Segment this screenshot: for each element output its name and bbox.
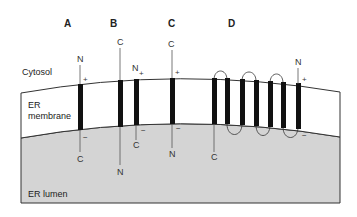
er-membrane-label-line2: membrane <box>28 111 71 121</box>
protein-a-c-terminus: C <box>77 154 84 164</box>
protein-a-plus-charge: + <box>83 75 88 84</box>
protein-c-minus-charge: − <box>176 124 181 133</box>
protein-a-n-terminus: N <box>77 54 84 64</box>
protein-d-tm-segment-3 <box>240 79 245 125</box>
protein-d-c-terminus: C <box>211 152 218 162</box>
protein-b-n-terminus-cytosol: N <box>132 63 139 73</box>
protein-c-n-terminus: N <box>169 149 176 159</box>
protein-c-header: C <box>168 18 175 29</box>
protein-c-tm-segment <box>170 78 175 124</box>
protein-d-n-terminus: N <box>295 57 302 67</box>
protein-d-tm-segment-2 <box>225 78 230 124</box>
protein-d-tm-segment-1 <box>212 78 217 124</box>
protein-d-tm-segment-7 <box>296 83 301 129</box>
protein-a-tm-segment <box>78 84 83 130</box>
er-lumen-label: ER lumen <box>28 189 68 199</box>
protein-c-c-terminus: C <box>168 39 175 49</box>
protein-d-plus-charge: + <box>302 75 307 84</box>
er-membrane-label-line1: ER <box>28 100 41 110</box>
er-lumen-region <box>21 124 340 203</box>
protein-a-minus-charge: − <box>83 133 88 142</box>
protein-c-plus-charge: + <box>175 68 180 77</box>
protein-b-header: B <box>110 18 117 29</box>
protein-d-header: D <box>228 18 235 29</box>
protein-b-c-terminus-lumen: C <box>133 140 140 150</box>
protein-b-tm-segment-1 <box>118 80 123 127</box>
protein-b-minus-charge: − <box>141 126 146 135</box>
protein-b-tm-segment-2 <box>134 79 139 125</box>
cytosol-label: Cytosol <box>22 67 52 77</box>
protein-d-tm-segment-4 <box>254 80 259 126</box>
protein-d-tm-segment-6 <box>281 82 286 128</box>
membrane-topology-diagram: Cytosol ER membrane ER lumen A B C D N +… <box>0 0 357 217</box>
protein-b-plus-charge: + <box>139 69 144 78</box>
protein-d-minus-charge: − <box>302 131 307 140</box>
protein-a-header: A <box>64 18 71 29</box>
protein-b-n-terminus-lumen: N <box>117 167 124 177</box>
protein-b-c-terminus-cytosol: C <box>117 37 124 47</box>
protein-d-tm-segment-5 <box>268 81 273 127</box>
